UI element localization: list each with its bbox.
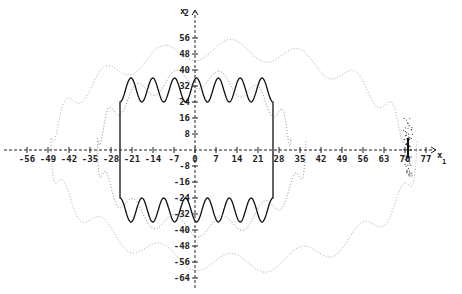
x-tick-label: -28 bbox=[103, 154, 119, 164]
cluster-point bbox=[408, 134, 409, 135]
cluster-point bbox=[409, 125, 410, 126]
cluster-point bbox=[408, 174, 409, 175]
y-tick-label: 24 bbox=[179, 97, 190, 107]
x-tick-label: 21 bbox=[253, 154, 264, 164]
y-tick-label: 32 bbox=[179, 81, 190, 91]
x-tick-label: -35 bbox=[82, 154, 98, 164]
y-tick-label: -32 bbox=[174, 209, 190, 219]
axis-labels: x 1 x 2 bbox=[180, 6, 446, 166]
ticks: -56-49-42-35-28-21-14-707142128354249566… bbox=[19, 33, 432, 283]
cluster-point bbox=[403, 139, 404, 140]
cluster-point bbox=[407, 128, 408, 129]
x-tick-label: -21 bbox=[124, 154, 140, 164]
cluster-point bbox=[405, 144, 406, 145]
y-tick-label: -64 bbox=[174, 273, 191, 283]
cluster-point bbox=[407, 164, 408, 165]
x-tick-label: -49 bbox=[40, 154, 56, 164]
cluster-point bbox=[406, 165, 407, 166]
y-tick-label: -56 bbox=[174, 257, 190, 267]
x-tick-label: 14 bbox=[232, 154, 243, 164]
y-tick-label: -40 bbox=[174, 225, 190, 235]
cluster-point bbox=[406, 119, 407, 120]
cluster-point bbox=[409, 175, 410, 176]
cluster-point bbox=[405, 135, 406, 136]
y-axis-subscript: 2 bbox=[184, 9, 189, 18]
x-tick-label: 49 bbox=[337, 154, 348, 164]
cluster-point bbox=[409, 173, 410, 174]
cluster-point bbox=[411, 127, 412, 128]
cluster-point bbox=[410, 165, 411, 166]
x-tick-label: -56 bbox=[19, 154, 35, 164]
cluster-point bbox=[409, 139, 410, 140]
y-tick-label: -24 bbox=[174, 193, 191, 203]
cluster-point bbox=[405, 127, 406, 128]
cluster-point bbox=[407, 172, 408, 173]
x-tick-label: 42 bbox=[316, 154, 327, 164]
y-tick-label: -48 bbox=[174, 241, 190, 251]
cluster-point bbox=[407, 170, 408, 171]
cluster-point bbox=[406, 132, 407, 133]
x-tick-label: 77 bbox=[421, 154, 432, 164]
cluster-point bbox=[408, 168, 409, 169]
y-tick-label: -8 bbox=[179, 161, 190, 171]
x-tick-label: 63 bbox=[379, 154, 390, 164]
x-tick-label: 70 bbox=[400, 154, 411, 164]
x-axis-subscript: 1 bbox=[442, 158, 446, 166]
cluster-point bbox=[409, 171, 410, 172]
phase-plot: -56-49-42-35-28-21-14-707142128354249566… bbox=[0, 0, 462, 294]
x-tick-label: 56 bbox=[358, 154, 369, 164]
cluster-point bbox=[411, 138, 412, 139]
y-tick-label: -16 bbox=[174, 177, 190, 187]
y-tick-label: 40 bbox=[179, 65, 190, 75]
cluster-point bbox=[406, 171, 407, 172]
y-tick-label: 48 bbox=[179, 49, 190, 59]
x-tick-label: -42 bbox=[61, 154, 77, 164]
x-tick-label: 35 bbox=[295, 154, 306, 164]
x-tick-label: 28 bbox=[274, 154, 285, 164]
cluster-point bbox=[409, 137, 410, 138]
cluster-point bbox=[405, 131, 406, 132]
cluster-point bbox=[403, 130, 404, 131]
cluster-point bbox=[408, 137, 409, 138]
y-tick-label: 16 bbox=[179, 113, 190, 123]
cluster-point bbox=[412, 134, 413, 135]
cluster-point bbox=[404, 118, 405, 119]
cluster-point bbox=[409, 118, 410, 119]
y-tick-label: 56 bbox=[179, 33, 190, 43]
x-tick-label: 7 bbox=[213, 154, 218, 164]
x-tick-label: 0 bbox=[192, 154, 197, 164]
cluster-point bbox=[411, 172, 412, 173]
x-tick-label: -14 bbox=[145, 154, 162, 164]
cluster-point bbox=[409, 146, 410, 147]
cluster-point bbox=[410, 156, 411, 157]
cluster-point bbox=[411, 175, 412, 176]
cluster-point bbox=[411, 129, 412, 130]
y-tick-label: 8 bbox=[185, 129, 190, 139]
x-tick-label: -7 bbox=[169, 154, 180, 164]
cluster-point bbox=[407, 122, 408, 123]
